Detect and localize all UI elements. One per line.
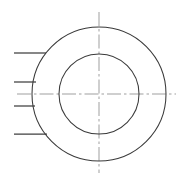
leader-line-group — [14, 53, 47, 134]
centerline-group — [17, 12, 176, 173]
drawing-svg-root — [0, 0, 186, 182]
technical-drawing-canvas — [0, 0, 186, 182]
